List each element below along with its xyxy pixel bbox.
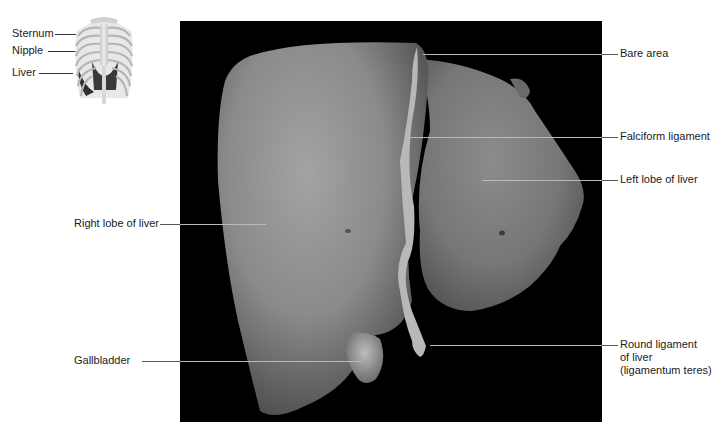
label-liver-inset: Liver — [12, 66, 36, 79]
label-sternum: Sternum — [12, 27, 54, 40]
label-round-ligament-1: Round ligament — [620, 338, 697, 351]
leader-gallbladder-ext — [142, 361, 180, 362]
label-round-ligament-2: of liver — [620, 351, 652, 364]
liver-photo-panel — [180, 21, 602, 422]
label-bare-area: Bare area — [620, 47, 668, 60]
leader-left-lobe-ext — [602, 180, 618, 181]
leader-gallbladder — [180, 361, 362, 362]
ribcage-illustration — [66, 12, 142, 106]
leader-round-ligament-ext — [602, 345, 618, 346]
leader-falciform — [410, 137, 602, 138]
label-gallbladder: Gallbladder — [74, 354, 130, 367]
label-nipple: Nipple — [12, 44, 43, 57]
label-left-lobe: Left lobe of liver — [620, 173, 698, 186]
leader-left-lobe — [482, 180, 602, 181]
leader-bare-area — [423, 54, 602, 55]
label-right-lobe: Right lobe of liver — [74, 217, 159, 230]
label-falciform-ligament: Falciform ligament — [620, 130, 710, 143]
leader-falciform-ext — [602, 137, 618, 138]
label-round-ligament-3: (ligamentum teres) — [620, 364, 712, 377]
leader-round-ligament — [430, 345, 602, 346]
leader-bare-area-ext — [602, 54, 618, 55]
leader-right-lobe-ext — [160, 224, 180, 225]
leader-right-lobe — [180, 224, 266, 225]
